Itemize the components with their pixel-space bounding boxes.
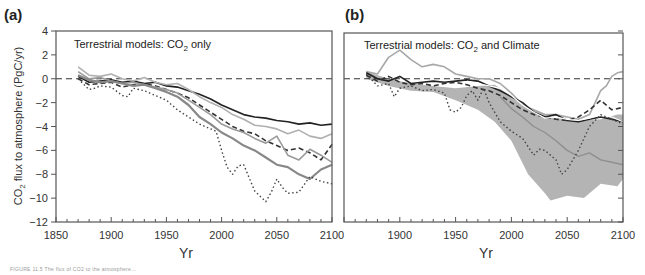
panel-a-x-axis-title: Yr [179,245,193,261]
figure-caption: FIGURE 11.5 The flux of CO2 to the atmos… [10,266,136,272]
y-tick-label: −8 [35,168,48,180]
y-tick-label: 2 [42,49,48,61]
x-tick-label: 2100 [611,229,635,241]
x-tick-label: 1950 [443,229,467,241]
panel-a-label: (a) [4,6,22,23]
panel-b-chart: (b) 19001950200020502100 Terrestrial mod… [344,6,635,261]
x-tick-label: 2050 [555,229,579,241]
panel-b-plot-area [344,50,623,200]
y-tick-label: −4 [35,121,48,133]
series-line [78,67,332,139]
panel-b-label: (b) [345,6,364,23]
panel-a-axes: 185019001950200020502100420−2−4−6−8−10−1… [29,25,344,241]
y-tick-label: −10 [29,192,48,204]
x-tick-label: 2100 [320,229,344,241]
panel-a-plot-area [56,67,332,202]
panel-b-annotation: Terrestrial models: CO2 and Climate [364,39,540,54]
x-tick-label: 2000 [209,229,233,241]
x-tick-label: 1950 [154,229,178,241]
y-tick-label: −12 [29,216,48,228]
x-tick-label: 1900 [388,229,412,241]
y-tick-label: −6 [35,144,48,156]
x-tick-label: 1900 [99,229,123,241]
x-tick-label: 2000 [499,229,523,241]
panel-a-frame [56,31,332,222]
series-line [78,76,332,125]
y-tick-label: 0 [42,73,48,85]
panel-b-x-axis-title: Yr [479,245,493,261]
panel-a-y-axis-title: CO2 flux to atmosphere (PgC/yr) [12,47,27,206]
figure: (a) 185019001950200020502100420−2−4−6−8−… [0,0,645,275]
x-tick-label: 1850 [44,229,68,241]
panel-a-chart: (a) 185019001950200020502100420−2−4−6−8−… [4,6,344,261]
y-tick-label: 4 [42,25,48,37]
y-tick-label: −2 [35,97,48,109]
x-tick-label: 2050 [265,229,289,241]
panel-a-annotation: Terrestrial models: CO2 only [74,38,212,53]
